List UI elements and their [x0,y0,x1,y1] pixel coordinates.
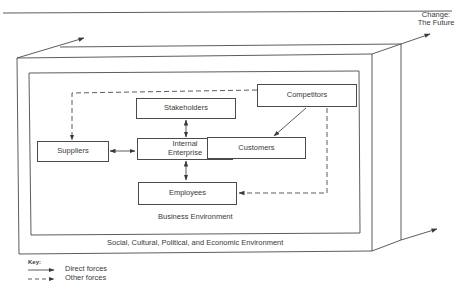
node-employees-label: Employees [169,189,206,198]
node-employees: Employees [138,182,237,205]
node-internal-label-line2: Enterprise [168,149,202,158]
node-customers: Customers [207,137,306,159]
future-arrow-left [17,38,84,58]
node-stakeholders: Stakeholders [136,98,236,119]
outer-environment-label: Social, Cultural, Political, and Economi… [107,239,283,247]
node-customers-label: Customers [238,144,274,153]
key-other-label: Other forces [65,274,106,282]
top-rule [3,11,452,13]
node-stakeholders-label: Stakeholders [164,104,208,113]
business-environment-label: Business Environment [158,213,233,221]
key-title: Key: [28,259,41,266]
future-arrow-top-right [401,34,430,44]
node-competitors-label: Competitors [287,91,327,100]
future-label: The Future [414,19,458,27]
future-arrow-bottom-right [401,229,437,240]
key-direct-label: Direct forces [65,265,107,273]
node-competitors: Competitors [257,84,357,107]
node-suppliers: Suppliers [37,141,109,162]
node-suppliers-label: Suppliers [57,147,88,156]
change-future-label: Change: The Future [414,11,458,28]
